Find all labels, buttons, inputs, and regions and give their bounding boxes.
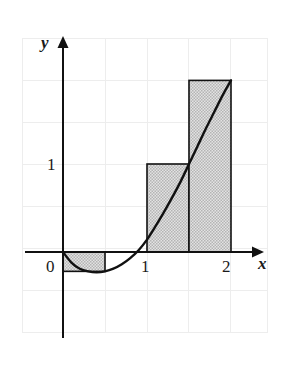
x-tick-label-2: 2 bbox=[222, 258, 231, 275]
y-axis-arrowhead bbox=[58, 36, 69, 48]
riemann-sum-figure: y x 0 1 2 1 bbox=[0, 0, 288, 368]
y-tick-label-1: 1 bbox=[47, 156, 56, 173]
plot-canvas bbox=[0, 0, 288, 368]
x-axis-label: x bbox=[258, 255, 267, 272]
x-tick-label-0: 0 bbox=[46, 258, 55, 275]
bottom-mask bbox=[0, 338, 288, 368]
top-mask bbox=[0, 0, 288, 36]
riemann-bar bbox=[189, 80, 231, 252]
y-axis-label: y bbox=[41, 34, 49, 51]
x-tick-label-1: 1 bbox=[141, 258, 150, 275]
